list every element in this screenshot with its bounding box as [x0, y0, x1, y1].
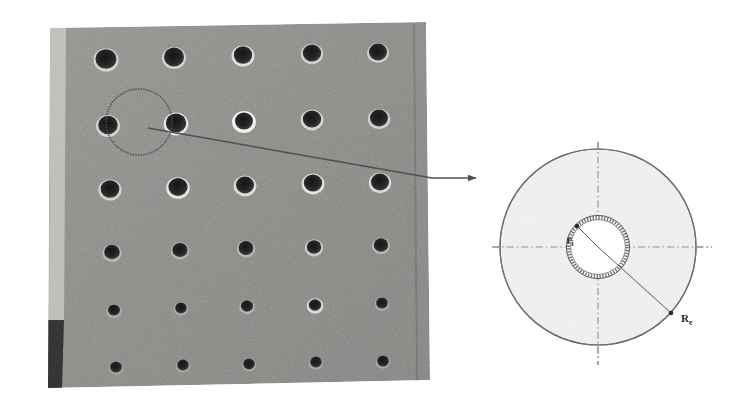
hole-cross-section-schematic: ri Re	[484, 135, 729, 380]
photo-canvas	[38, 20, 432, 392]
outer-radius-label-sub: e	[689, 318, 693, 327]
perforated-plate-photograph	[38, 20, 432, 392]
plate-left-light-strip	[49, 28, 66, 322]
outer-radius-label: Re	[681, 312, 693, 327]
figure-root: ri Re	[0, 0, 749, 411]
plate-left-dark-strip	[47, 320, 64, 388]
plate-surface	[38, 20, 432, 392]
inner-radius-label-sub: i	[571, 239, 573, 248]
diagram-canvas: ri Re	[484, 135, 729, 380]
